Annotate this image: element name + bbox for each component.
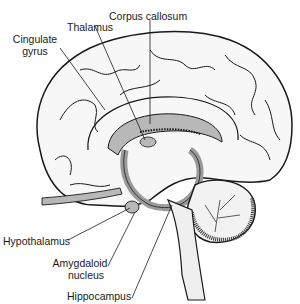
label-amygdaloid-line1: Amygdaloid	[50, 257, 110, 269]
label-amygdaloid-nucleus: Amygdaloid nucleus	[50, 257, 110, 281]
label-cingulate-gyrus-line2: gyrus	[10, 45, 60, 57]
label-hypothalamus: Hypothalamus	[3, 235, 70, 247]
label-amygdaloid-line2: nucleus	[50, 269, 110, 281]
brain-diagram: Cingulate gyrus Thalamus Corpus callosum…	[0, 0, 300, 304]
thalamus-shape	[140, 137, 156, 147]
label-cingulate-gyrus: Cingulate gyrus	[10, 33, 60, 57]
amygdala-shape	[125, 201, 139, 213]
label-cingulate-gyrus-line1: Cingulate	[10, 33, 60, 45]
label-hippocampus: Hippocampus	[67, 290, 131, 302]
label-thalamus: Thalamus	[67, 21, 113, 33]
label-corpus-callosum: Corpus callosum	[109, 10, 187, 22]
